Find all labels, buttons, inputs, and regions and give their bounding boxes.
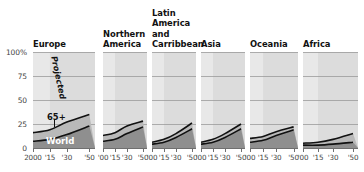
x-tick-mark [294, 148, 295, 152]
x-axis-line [250, 148, 298, 149]
x-axis-line [103, 148, 147, 149]
panel-title-line: America [103, 39, 147, 49]
x-tick-label: '15 [45, 153, 56, 162]
panel-europe: Europe2000'15'30'50Projected65+World [33, 0, 95, 172]
x-tick-mark [241, 148, 242, 152]
panel-title: LatinAmericaandCarribbean [152, 8, 196, 49]
plot-area [250, 52, 298, 148]
panel-title: NorthernAmerica [103, 29, 147, 49]
panel-title: Africa [303, 39, 358, 49]
plot-area [152, 52, 196, 148]
panel-title-line: Carribbean [152, 39, 196, 49]
x-tick-label: '00 [245, 153, 256, 162]
annotation-world: World [46, 136, 74, 146]
panel-title: Oceania [250, 39, 298, 49]
x-axis-line [152, 148, 196, 149]
panel-title-line: Northern [103, 29, 147, 39]
x-tick-mark [67, 148, 68, 152]
x-tick-label: '15 [110, 153, 121, 162]
x-tick-mark [33, 148, 34, 152]
panel-title-line: Africa [303, 39, 358, 49]
panel-title: Asia [201, 39, 245, 49]
x-tick-mark [176, 148, 177, 152]
x-tick-mark [127, 148, 128, 152]
x-tick-mark [152, 148, 153, 152]
x-tick-label: '50 [84, 153, 95, 162]
x-tick-mark [213, 148, 214, 152]
annotation-leader-line [54, 119, 55, 127]
x-tick-mark [333, 148, 334, 152]
small-multiples-chart: 100%7550250 Europe2000'15'30'50Projected… [0, 0, 364, 172]
annotation-65plus: 65+ [47, 112, 66, 122]
x-tick-label: '30 [220, 153, 231, 162]
x-tick-mark [103, 148, 104, 152]
x-tick-mark [50, 148, 51, 152]
panel-title: Europe [33, 39, 95, 49]
x-tick-mark [250, 148, 251, 152]
plot-area [103, 52, 147, 148]
y-tick-label: 75 [18, 72, 27, 81]
x-tick-label: '00 [147, 153, 158, 162]
plot-area [303, 52, 358, 148]
x-tick-mark [263, 148, 264, 152]
x-tick-mark [192, 148, 193, 152]
x-tick-mark [353, 148, 354, 152]
panel-title-line: Europe [33, 39, 95, 49]
y-tick-label: 100% [6, 48, 27, 57]
x-tick-mark [89, 148, 90, 152]
x-tick-label: '30 [171, 153, 182, 162]
panel-africa: Africa'00'15'30'50 [303, 0, 358, 172]
x-tick-mark [303, 148, 304, 152]
y-tick-label: 50 [18, 96, 27, 105]
panel-title-line: Oceania [250, 39, 298, 49]
plot-area [33, 52, 95, 148]
panel-title-line: America [152, 18, 196, 28]
x-tick-label: '15 [208, 153, 219, 162]
x-tick-label: 2000 [24, 153, 42, 162]
x-tick-label: '00 [196, 153, 207, 162]
x-tick-label: '50 [348, 153, 359, 162]
x-tick-label: '00 [298, 153, 309, 162]
x-tick-label: '30 [62, 153, 73, 162]
plot-area [201, 52, 245, 148]
x-tick-mark [225, 148, 226, 152]
panel-title-line: and [152, 29, 196, 39]
x-tick-mark [115, 148, 116, 152]
x-tick-mark [201, 148, 202, 152]
panel-asia: Asia'00'15'30'50 [201, 0, 245, 172]
x-axis-line [33, 148, 95, 149]
y-axis: 100%7550250 [0, 0, 30, 172]
x-tick-label: '30 [271, 153, 282, 162]
x-tick-label: '30 [328, 153, 339, 162]
x-tick-label: '30 [122, 153, 133, 162]
x-axis-line [303, 148, 358, 149]
y-tick-label: 25 [18, 120, 27, 129]
x-tick-label: '00 [98, 153, 109, 162]
x-tick-label: '15 [258, 153, 269, 162]
x-tick-mark [276, 148, 277, 152]
x-tick-mark [143, 148, 144, 152]
x-tick-mark [318, 148, 319, 152]
panel-title-line: Asia [201, 39, 245, 49]
x-tick-label: '15 [313, 153, 324, 162]
x-axis-line [201, 148, 245, 149]
x-tick-mark [164, 148, 165, 152]
panel-title-line: Latin [152, 8, 196, 18]
panel-northern-america: NorthernAmerica'00'15'30'50 [103, 0, 147, 172]
x-tick-label: '15 [159, 153, 170, 162]
y-tick-label: 0 [22, 144, 27, 153]
panel-latin-america-and-carribbean: LatinAmericaandCarribbean'00'15'30'50 [152, 0, 196, 172]
panel-oceania: Oceania'00'15'30'50 [250, 0, 298, 172]
